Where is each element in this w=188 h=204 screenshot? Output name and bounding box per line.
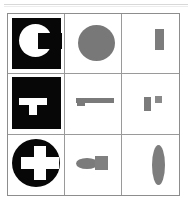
c-shape-figure	[8, 14, 64, 73]
grid-cell-r2c1	[8, 74, 65, 134]
shape-grid	[7, 13, 180, 196]
square-rectangle-icon	[155, 96, 162, 103]
square-icon	[95, 156, 108, 170]
ellipse-square-figure	[65, 135, 121, 195]
grid-cell-r1c1	[8, 14, 65, 74]
tall-ellipse-icon	[152, 145, 165, 185]
t-shape-figure	[8, 74, 64, 133]
cross-on-disc-figure	[8, 135, 64, 195]
grid-cell-r2c3	[122, 74, 179, 134]
cross-vertical-arm	[34, 146, 46, 180]
grid-cell-r1c2	[65, 14, 122, 74]
rectangle-pair-figure	[122, 74, 179, 133]
header-rule-secondary	[4, 6, 188, 7]
bar-tab	[77, 101, 85, 106]
bar-with-tab-figure	[65, 74, 121, 133]
grid-cell-r3c1	[8, 135, 65, 195]
grid-cell-r3c3	[122, 135, 179, 195]
t-stem	[29, 103, 37, 115]
grid-cell-r2c2	[65, 74, 122, 134]
grid-cell-r3c2	[65, 135, 122, 195]
tall-rectangle-icon	[144, 97, 151, 111]
vertical-rectangle-figure	[122, 14, 179, 73]
circle-icon	[78, 25, 115, 61]
circle-figure	[65, 14, 121, 73]
c-notch	[38, 33, 62, 49]
header-rule-primary	[4, 4, 188, 5]
grid-cell-r1c3	[122, 14, 179, 74]
figure-root	[0, 0, 188, 204]
tall-ellipse-figure	[122, 135, 179, 195]
rectangle-icon	[155, 29, 164, 50]
